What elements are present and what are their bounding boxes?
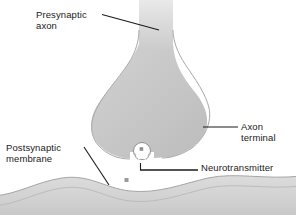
neurotransmitter-particle-released	[125, 178, 129, 182]
label-axon-terminal: Axon terminal	[241, 121, 276, 143]
label-presynaptic-axon: Presynaptic axon	[36, 9, 87, 31]
diagram-canvas	[0, 0, 296, 215]
axon-shaft-highlight	[139, 0, 173, 50]
synapse-diagram-figure: Presynaptic axon Axon terminal Postsynap…	[0, 0, 296, 215]
label-neurotransmitter: Neurotransmitter	[201, 162, 273, 173]
label-postsynaptic-membrane: Postsynaptic membrane	[6, 142, 61, 164]
neurotransmitter-particle	[140, 147, 144, 151]
postsynaptic-membrane-band	[0, 176, 296, 215]
